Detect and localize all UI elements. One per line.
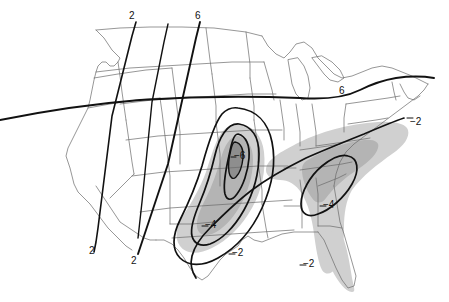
state-line-ia-il	[280, 100, 284, 140]
state-line-new-england	[400, 84, 420, 100]
lake-huron	[312, 56, 344, 82]
contour-label-6-north: 6	[195, 11, 201, 21]
shaded-anomaly-regions	[177, 122, 409, 292]
map-canvas	[0, 0, 449, 302]
contour-label-2-northwest: 2	[129, 11, 135, 21]
state-line-nv-ut	[126, 120, 134, 174]
contour-label-2-southwest: 2	[89, 246, 95, 256]
state-line-ok-tx	[262, 204, 268, 238]
state-line-wy-co	[212, 74, 216, 122]
contour-label-minus2-texas: −2	[232, 248, 243, 258]
state-line-id-nv	[118, 62, 126, 120]
state-line-nd-sd	[246, 32, 250, 78]
border-mexico	[96, 186, 156, 240]
contour-map-figure: 2 6 6 −2 −6 −4 −4 −2 −2 2 2	[0, 0, 449, 302]
state-line-mt-wy	[206, 28, 212, 74]
state-line-horiz-north	[96, 62, 264, 72]
contour-label-minus2-gulf: −2	[303, 259, 314, 269]
border-canada-north	[96, 27, 262, 36]
contour-positive-4-intermediate	[138, 24, 168, 238]
state-line-pa-ny	[346, 96, 400, 104]
contour-label-minus4-midwest: −4	[205, 220, 216, 230]
contour-label-6-great-lakes: 6	[339, 86, 345, 96]
contour-label-2-south: 2	[131, 256, 137, 266]
state-line-wa-or	[94, 68, 172, 78]
contour-label-minus2-northeast: −2	[410, 117, 421, 127]
state-line-il-in	[296, 104, 300, 146]
state-line-ca-nv-az	[110, 174, 134, 198]
contour-positive-6-northeast	[0, 77, 434, 121]
contour-label-minus4-southeast: −4	[323, 200, 334, 210]
contour-label-minus6-core: −6	[234, 151, 245, 161]
lake-michigan	[288, 58, 310, 100]
